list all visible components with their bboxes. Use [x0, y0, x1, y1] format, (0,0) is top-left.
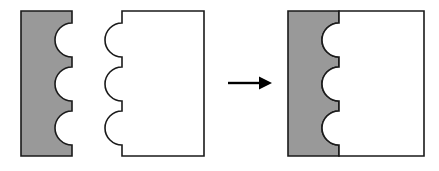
white-piece-with-tabs[interactable]: [105, 11, 204, 156]
puzzle-pieces-diagram: Interlocking puzzle pieces assembly diag…: [0, 0, 439, 171]
transformation-arrow: [228, 77, 272, 90]
arrow-head-icon: [259, 77, 272, 90]
separated-pieces-group: [21, 11, 204, 156]
figure-canvas: Interlocking puzzle pieces assembly diag…: [0, 0, 439, 171]
assembled-pieces-group: [288, 11, 424, 156]
assembled-white-piece[interactable]: [322, 11, 424, 156]
gray-piece-with-notches[interactable]: [21, 11, 72, 156]
